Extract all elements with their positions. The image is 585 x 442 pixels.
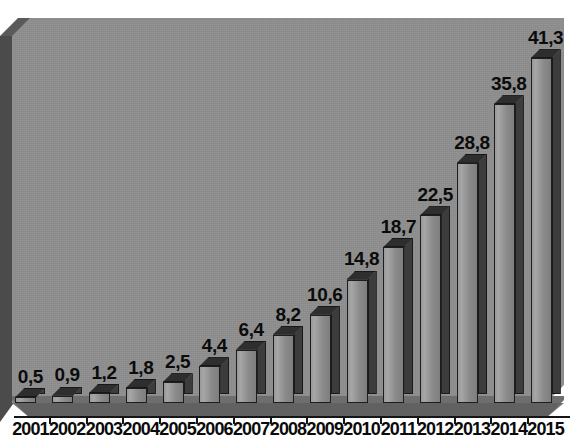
- bar-front-face: [15, 397, 36, 403]
- x-axis-line: [14, 416, 570, 418]
- x-axis-tick: [86, 416, 88, 424]
- bar-side-face: [257, 341, 266, 394]
- bar-2013: [457, 154, 487, 403]
- x-axis-tick: [159, 416, 161, 424]
- value-label-2014: 35,8: [486, 73, 532, 95]
- x-axis-tick: [527, 416, 529, 424]
- bar-front-face: [236, 350, 257, 403]
- bar-series: [12, 18, 564, 403]
- bar-front-face: [457, 163, 478, 403]
- bar-side-face: [478, 154, 487, 394]
- bar-chart: 0,50,91,21,82,54,46,48,210,614,818,722,5…: [0, 0, 585, 442]
- bar-front-face: [494, 104, 515, 403]
- bar-front-face: [199, 366, 220, 403]
- x-axis-tick: [233, 416, 235, 424]
- bar-side-face: [404, 238, 413, 394]
- bar-top-face: [15, 388, 45, 397]
- value-label-2010: 14,8: [339, 248, 385, 270]
- value-label-2011: 18,7: [375, 216, 421, 238]
- x-axis-tick: [122, 416, 124, 424]
- x-axis-tick: [49, 416, 51, 424]
- x-axis-tick: [490, 416, 492, 424]
- bar-front-face: [347, 280, 368, 404]
- bar-front-face: [126, 388, 147, 403]
- bar-side-face: [368, 271, 377, 395]
- bar-top-face: [52, 387, 82, 396]
- x-axis-tick: [343, 416, 345, 424]
- x-axis-label-2015: 2015: [523, 419, 569, 440]
- bar-front-face: [52, 396, 73, 404]
- bar-2006: [199, 357, 229, 403]
- bar-2002: [52, 387, 82, 404]
- x-axis-tick: [196, 416, 198, 424]
- bar-front-face: [383, 247, 404, 403]
- bar-front-face: [420, 215, 441, 403]
- bar-side-face: [552, 49, 561, 394]
- bar-2005: [163, 373, 193, 403]
- bar-2011: [383, 238, 413, 403]
- value-label-2008: 8,2: [265, 304, 311, 326]
- x-axis-tick: [306, 416, 308, 424]
- bar-2007: [236, 341, 266, 403]
- bar-2004: [126, 379, 156, 403]
- bar-front-face: [531, 58, 552, 403]
- value-label-2012: 22,5: [412, 184, 458, 206]
- x-axis-tick: [417, 416, 419, 424]
- bar-front-face: [273, 335, 294, 403]
- bar-2012: [420, 206, 450, 403]
- bar-2008: [273, 326, 303, 403]
- x-axis-tick: [454, 416, 456, 424]
- bar-front-face: [89, 393, 110, 403]
- bar-2009: [310, 306, 340, 403]
- value-label-2013: 28,8: [449, 132, 495, 154]
- bar-2003: [89, 384, 119, 403]
- bar-2014: [494, 95, 524, 403]
- x-axis-tick: [270, 416, 272, 424]
- bar-2010: [347, 271, 377, 404]
- value-label-2009: 10,6: [302, 284, 348, 306]
- value-label-2015: 41,3: [523, 27, 569, 49]
- bar-2001: [15, 388, 45, 403]
- bar-front-face: [163, 382, 184, 403]
- bar-side-face: [441, 206, 450, 394]
- x-axis-tick: [380, 416, 382, 424]
- bar-side-face: [515, 95, 524, 394]
- bar-side-face: [331, 306, 340, 394]
- bar-2015: [531, 49, 561, 403]
- bar-front-face: [310, 315, 331, 403]
- bar-side-face: [294, 326, 303, 394]
